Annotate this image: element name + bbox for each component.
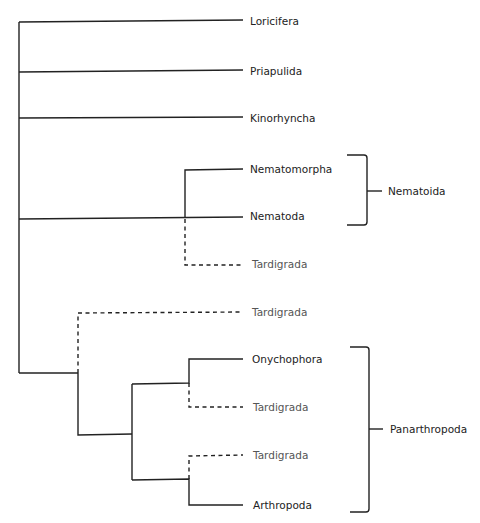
taxon-label-tardigrada-3: Tardigrada <box>253 400 308 414</box>
branch-kinorhyncha <box>19 117 243 118</box>
branch-priapulida <box>19 70 243 72</box>
branch-panarthropoda-stem <box>78 373 132 435</box>
taxon-label-loricifera: Loricifera <box>250 14 299 28</box>
taxon-label-kinorhyncha: Kinorhyncha <box>250 111 315 125</box>
phylogenetic-tree <box>0 0 480 523</box>
branch-nematomorpha <box>185 169 243 218</box>
group-label-nematoida: Nematoida <box>388 184 446 198</box>
taxon-label-onychophora: Onychophora <box>252 352 322 366</box>
bracket-nematoida <box>347 155 367 225</box>
taxon-label-tardigrada-1: Tardigrada <box>252 257 307 271</box>
branch-tardigrada-basal <box>78 312 243 373</box>
taxon-label-tardigrada-2: Tardigrada <box>252 305 307 319</box>
branch-tardigrada-nematoida <box>185 219 243 265</box>
taxon-label-tardigrada-4: Tardigrada <box>253 448 308 462</box>
branch-tardigrada-arthropoda <box>189 455 243 479</box>
branch-tardigrada-onychophora <box>189 383 243 407</box>
branch-loricifera <box>19 20 243 22</box>
taxon-label-priapulida: Priapulida <box>250 64 302 78</box>
branch-nematoda <box>19 217 243 219</box>
taxon-label-nematoda: Nematoda <box>250 209 305 223</box>
branch-arthropoda <box>132 479 243 505</box>
taxon-label-arthropoda: Arthropoda <box>253 498 312 512</box>
bracket-panarthropoda <box>350 347 369 512</box>
branch-onychophora <box>132 359 243 384</box>
taxon-label-nematomorpha: Nematomorpha <box>250 162 332 176</box>
group-label-panarthropoda: Panarthropoda <box>390 422 467 436</box>
